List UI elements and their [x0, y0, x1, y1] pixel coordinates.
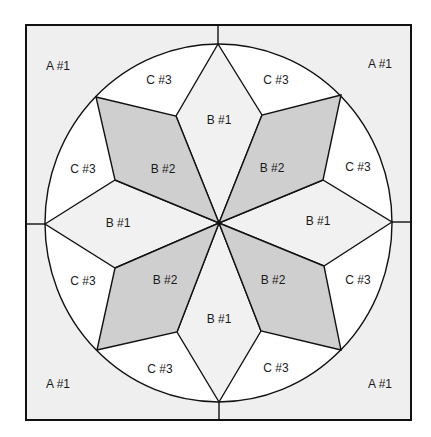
label-a1-bottom-left: A #1	[46, 377, 70, 391]
label-c3-left-bottom: C #3	[70, 274, 96, 288]
label-a1-top-left: A #1	[46, 59, 70, 73]
label-b1-bottom: B #1	[207, 312, 232, 326]
label-b1-left: B #1	[106, 216, 131, 230]
label-c3-right-bottom: C #3	[345, 273, 371, 287]
label-c3-bottom-left: C #3	[147, 362, 173, 376]
label-b2-upper-right: B #2	[260, 161, 285, 175]
star-center-point	[217, 221, 221, 225]
label-c3-top-right: C #3	[263, 73, 289, 87]
label-b2-upper-left: B #2	[151, 162, 176, 176]
label-c3-right-top: C #3	[345, 160, 371, 174]
label-c3-top-left: C #3	[146, 73, 172, 87]
label-a1-bottom-right: A #1	[368, 377, 392, 391]
label-a1-top-right: A #1	[368, 57, 392, 71]
label-c3-bottom-right: C #3	[263, 361, 289, 375]
quilt-block-diagram: A #1 A #1 A #1 A #1 B #1 B #1 B #1 B #1 …	[0, 0, 431, 437]
label-c3-left-top: C #3	[70, 162, 96, 176]
label-b1-right: B #1	[306, 214, 331, 228]
label-b2-lower-left: B #2	[153, 273, 178, 287]
label-b2-lower-right: B #2	[261, 273, 286, 287]
label-b1-top: B #1	[207, 113, 232, 127]
